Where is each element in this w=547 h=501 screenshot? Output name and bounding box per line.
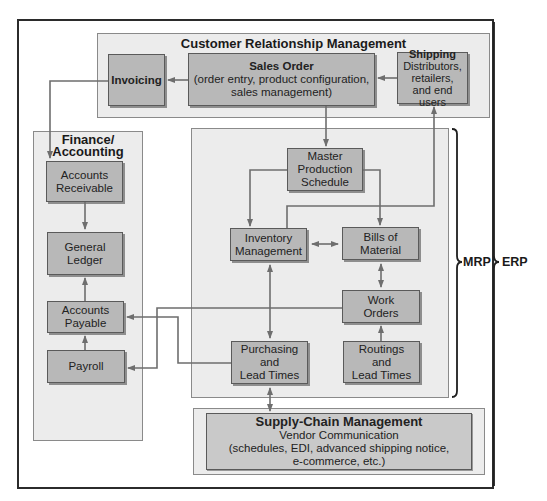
purchasing-box: Purchasing and Lead Times (231, 341, 308, 384)
accounts-receivable-box: Accounts Receivable (46, 161, 123, 202)
shipping-line2: retailers, (411, 72, 453, 84)
finance-title: Finance/ Accounting (33, 134, 143, 158)
routings-box: Routings and Lead Times (343, 341, 420, 383)
purchasing-line1: Purchasing (241, 343, 299, 356)
routings-line1: Routings (359, 343, 404, 356)
mrp-label: MRP (463, 255, 491, 269)
shipping-title: Shipping (409, 48, 456, 60)
work-orders-line1: Work (368, 294, 395, 307)
work-orders-box: Work Orders (342, 290, 420, 323)
general-ledger-box: General Ledger (47, 232, 123, 275)
accounts-receivable-line1: Accounts (61, 169, 108, 182)
mps-line1: Master (307, 150, 342, 163)
routings-line2: and (372, 356, 391, 369)
shipping-line3: and end users (398, 84, 467, 108)
invoicing-label: Invoicing (111, 74, 161, 87)
bills-of-material-box: Bills of Material (342, 227, 419, 260)
general-ledger-line2: Ledger (67, 254, 103, 267)
inventory-line1: Inventory (245, 232, 292, 245)
mps-line2: Production (298, 163, 353, 176)
shipping-line1: Distributors, (403, 60, 462, 72)
scm-line1: Vendor Communication (279, 429, 399, 442)
general-ledger-line1: General (65, 241, 106, 254)
routings-line3: Lead Times (352, 369, 411, 382)
inventory-management-box: Inventory Management (230, 228, 307, 261)
purchasing-line2: and (260, 356, 279, 369)
scm-line2: (schedules, EDI, advanced shipping notic… (229, 442, 450, 455)
shipping-box: Shipping Distributors, retailers, and en… (397, 52, 468, 104)
accounts-payable-box: Accounts Payable (47, 301, 124, 333)
scm-title: Supply-Chain Management (256, 415, 423, 429)
bom-line1: Bills of (364, 231, 398, 244)
accounts-payable-line2: Payable (65, 317, 107, 330)
scm-box: Supply-Chain Management Vendor Communica… (206, 413, 472, 470)
accounts-receivable-line2: Receivable (56, 182, 113, 195)
scm-line3: e-commerce, etc.) (293, 455, 386, 468)
bom-line2: Material (360, 244, 401, 257)
sales-order-line2: sales management) (231, 86, 332, 99)
erp-label: ERP (502, 255, 528, 269)
purchasing-line3: Lead Times (240, 369, 299, 382)
mps-line3: Schedule (301, 176, 349, 189)
payroll-box: Payroll (47, 350, 125, 383)
sales-order-line1: (order entry, product configuration, (194, 73, 370, 86)
accounts-payable-line1: Accounts (62, 304, 109, 317)
sales-order-box: Sales Order (order entry, product config… (188, 53, 375, 106)
inventory-line2: Management (235, 245, 302, 258)
work-orders-line2: Orders (363, 307, 398, 320)
master-production-schedule-box: Master Production Schedule (287, 148, 363, 191)
invoicing-box: Invoicing (108, 54, 165, 106)
payroll-label: Payroll (68, 360, 103, 373)
finance-title-line2: Accounting (33, 146, 143, 158)
sales-order-title: Sales Order (249, 60, 314, 73)
